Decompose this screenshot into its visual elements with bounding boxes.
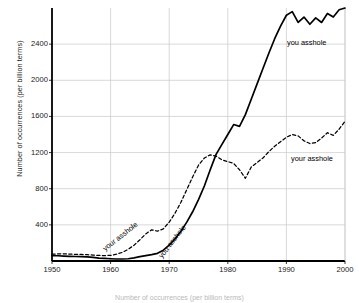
y-tick-label: 1200	[14, 149, 48, 157]
x-tick-label: 1960	[93, 266, 129, 274]
y-tick-label: 1600	[14, 112, 48, 120]
figure-caption: Number of occurrences (per billion terms…	[0, 294, 359, 303]
y-tick-label: 2400	[14, 40, 48, 48]
x-tick-label: 2000	[327, 266, 359, 274]
annotation-you-asshole-right: you asshole	[287, 39, 326, 46]
x-tick-label: 1990	[268, 266, 304, 274]
x-tick-label: 1950	[34, 266, 70, 274]
annotation-your-asshole-right: your asshole	[291, 155, 333, 162]
y-tick-label: 800	[14, 185, 48, 193]
x-tick-label: 1980	[210, 266, 246, 274]
x-tick-label: 1970	[151, 266, 187, 274]
y-tick-label: 400	[14, 221, 48, 229]
y-tick-label: 2000	[14, 76, 48, 84]
